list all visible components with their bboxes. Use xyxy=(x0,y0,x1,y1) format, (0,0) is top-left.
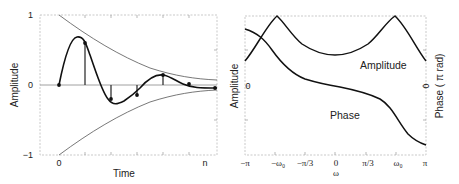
right-chart: Amplitude Phase 0 0 Amplitude Phase ( π … xyxy=(229,16,445,178)
phase-curve xyxy=(245,29,426,145)
right-xtick-minus-omega0: −ω₀ xyxy=(271,158,285,168)
right-xtick-0: 0 xyxy=(334,158,339,168)
amplitude-curve xyxy=(245,16,426,61)
amplitude-annotation: Amplitude xyxy=(360,59,407,71)
left-ylabel: Amplitude xyxy=(9,62,20,107)
left-ytick-1: 1 xyxy=(28,10,33,20)
right-ytick-left-0: 0 xyxy=(245,81,250,91)
phase-annotation: Phase xyxy=(330,109,360,121)
right-ylabel-right: Phase ( π rad) xyxy=(434,54,445,119)
right-xtick-pi: π xyxy=(423,158,428,168)
upper-envelope xyxy=(59,15,217,80)
right-ytick-right-0: 0 xyxy=(421,83,431,88)
left-chart: 1 0 −1 0 n Time Amplitude xyxy=(9,10,217,179)
left-xtick-0: 0 xyxy=(56,158,61,168)
left-ytick-0: 0 xyxy=(28,80,33,90)
figure: 1 0 −1 0 n Time Amplitude Amplitude Phas… xyxy=(0,0,459,184)
right-ylabel-left: Amplitude xyxy=(229,63,240,108)
right-xtick-minus-pi-over-3: −π/3 xyxy=(297,158,314,168)
right-xtick-omega0: ω₀ xyxy=(393,158,402,168)
right-xtick-minus-pi: −π xyxy=(240,158,250,168)
left-ytick-minus1: −1 xyxy=(23,150,33,160)
lower-envelope xyxy=(59,90,217,155)
right-xtick-pi-over-3: π/3 xyxy=(362,158,374,168)
left-xtick-n: n xyxy=(202,158,207,168)
right-xlabel: ω xyxy=(333,168,339,178)
left-xlabel: Time xyxy=(113,168,135,179)
